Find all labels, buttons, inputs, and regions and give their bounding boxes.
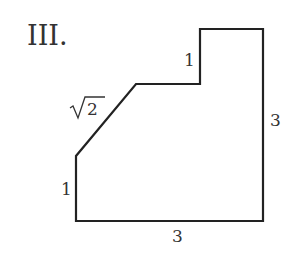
polygon-shape	[76, 29, 263, 221]
label-diagonal: 2	[70, 97, 105, 119]
label-bottom: 3	[172, 226, 183, 246]
label-step-vertical: 1	[184, 50, 195, 70]
figure-svg: III. 1 2 1 3 3	[0, 0, 298, 265]
label-right-vertical: 3	[270, 110, 281, 130]
figure-label: III.	[27, 20, 68, 51]
geometry-figure: III. 1 2 1 3 3	[0, 0, 298, 265]
label-left-vertical: 1	[61, 179, 72, 199]
label-diagonal-value: 2	[87, 99, 98, 119]
